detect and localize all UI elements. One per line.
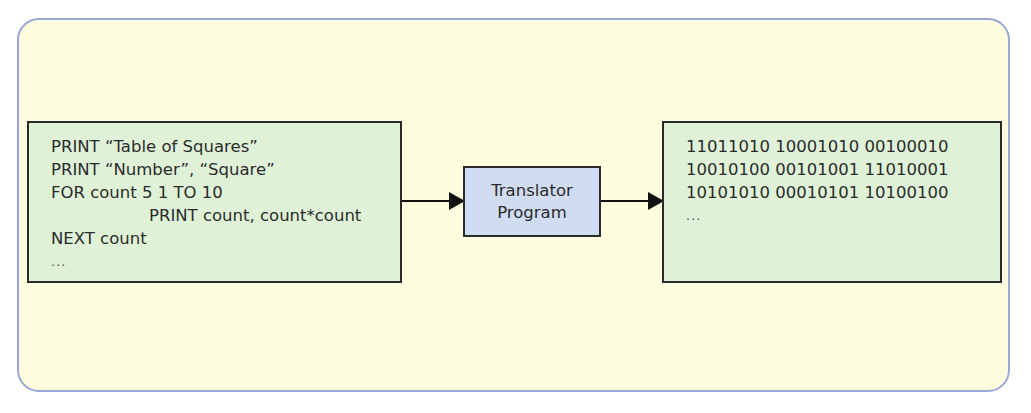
source-ellipsis: ... (51, 250, 400, 273)
binary-line: 10101010 00010101 10100100 (686, 181, 1000, 204)
translator-label-line2: Program (497, 202, 567, 224)
source-line: PRINT count, count*count (51, 204, 400, 227)
arrow-right-icon (601, 200, 662, 202)
source-line: NEXT count (51, 227, 400, 250)
binary-line: 10010100 00101001 11010001 (686, 158, 1000, 181)
arrow-right-icon (402, 200, 463, 202)
translator-label-line1: Translator (491, 180, 573, 202)
source-line: PRINT “Table of Squares” (51, 135, 400, 158)
source-code-box: PRINT “Table of Squares” PRINT “Number”,… (27, 121, 402, 283)
binary-ellipsis: ... (686, 204, 1000, 227)
source-line: PRINT “Number”, “Square” (51, 158, 400, 181)
machine-code-box: 11011010 10001010 00100010 10010100 0010… (662, 121, 1002, 283)
source-line: FOR count 5 1 TO 10 (51, 181, 400, 204)
translator-program-box: Translator Program (463, 166, 601, 237)
binary-line: 11011010 10001010 00100010 (686, 135, 1000, 158)
